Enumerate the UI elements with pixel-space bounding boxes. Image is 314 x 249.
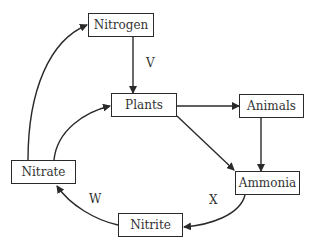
node-label: Nitrite [130,218,171,232]
node-label: Animals [247,99,296,113]
edge-plants-ammonia [177,116,234,170]
node-label: Ammonia [239,176,296,190]
edge-label-v: V [146,56,155,70]
edge-nitrate-plants [54,106,110,160]
node-nitrogen: Nitrogen [88,13,154,37]
edge-nitrite-nitrate [57,186,118,225]
edge-label-x: X [209,193,218,207]
node-label: Nitrate [22,165,66,179]
node-plants: Plants [111,93,177,117]
edges-layer [0,0,314,249]
node-animals: Animals [239,94,304,118]
edge-label-w: W [89,192,101,206]
node-nitrate: Nitrate [11,160,76,184]
edge-nitrate-nitrogen [28,25,87,160]
node-nitrite: Nitrite [118,213,183,237]
node-label: Nitrogen [94,18,149,32]
node-label: Plants [125,98,163,112]
node-ammonia: Ammonia [235,171,300,195]
